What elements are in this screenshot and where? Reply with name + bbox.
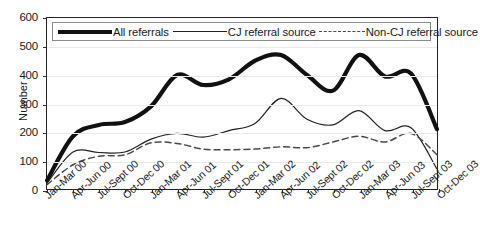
y-tick-label: 200 <box>19 126 38 138</box>
y-tick-label: 100 <box>19 155 38 167</box>
legend-label-non-cj-referral-source: Non-CJ referral source <box>366 26 478 38</box>
chart-legend: All referrals CJ referral source Non-CJ … <box>52 22 431 41</box>
legend-swatch-dashed-line-icon <box>319 31 365 32</box>
legend-label-all-referrals: All referrals <box>113 26 169 38</box>
y-tick-label: 300 <box>19 98 38 110</box>
y-axis-tick <box>43 18 47 19</box>
y-axis-tick <box>43 105 47 106</box>
grid-line <box>47 105 437 106</box>
y-tick-label: 500 <box>19 40 38 52</box>
y-axis-tick <box>43 162 47 163</box>
legend-swatch-thick-line-icon <box>58 30 112 34</box>
y-tick-label: 400 <box>19 69 38 81</box>
grid-line <box>47 133 437 134</box>
legend-swatch-thin-line-icon <box>173 31 227 32</box>
y-axis-tick <box>43 133 47 134</box>
legend-label-cj-referral-source: CJ referral source <box>228 26 316 38</box>
y-axis-tick <box>43 47 47 48</box>
grid-line <box>47 76 437 77</box>
x-axis-tick-labels: Jan-Mar 00Apr-Jun 00Jul-Sept 00Oct-Dec 0… <box>0 192 460 252</box>
y-tick-label: 600 <box>19 11 38 23</box>
grid-line <box>47 47 437 48</box>
legend-item-non-cj-referral-source: Non-CJ referral source <box>319 23 478 40</box>
y-axis-tick <box>43 76 47 77</box>
legend-item-cj-referral-source: CJ referral source <box>173 23 316 40</box>
legend-item-all-referrals: All referrals <box>58 23 169 40</box>
